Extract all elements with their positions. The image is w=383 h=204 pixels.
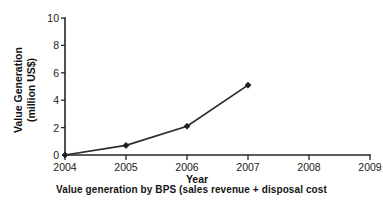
y-tick-label-8: 8 — [53, 39, 59, 51]
figure-caption: Value generation by BPS (sales revenue +… — [0, 184, 383, 195]
figure-container: Value Generation (million US$) 10 8 6 4 … — [0, 0, 383, 204]
series-line-value-generation — [65, 85, 248, 155]
line-chart: Value Generation (million US$) 10 8 6 4 … — [0, 0, 383, 180]
chart-plot-area: Value Generation (million US$) 10 8 6 4 … — [0, 0, 383, 180]
y-axis-title-line2: (million US$) — [25, 58, 37, 122]
y-tick-label-10: 10 — [47, 12, 59, 24]
y-tick-label-0: 0 — [53, 149, 59, 161]
series-markers — [62, 82, 251, 158]
y-tick-label-6: 6 — [53, 67, 59, 79]
y-tick-label-4: 4 — [53, 94, 59, 106]
data-point-2005 — [123, 142, 129, 148]
y-tick-label-2: 2 — [53, 122, 59, 134]
y-axis-title-line1: Value Generation — [12, 47, 24, 133]
data-point-2004 — [62, 152, 68, 158]
